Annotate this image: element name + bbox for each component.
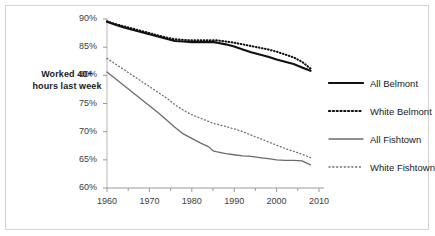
legend-item-3[interactable]: White Fishtown	[328, 160, 435, 174]
x-tick-label: 1990	[216, 196, 252, 206]
x-tick-label: 1960	[89, 196, 125, 206]
legend-swatch-icon	[328, 105, 364, 117]
y-tick-label: 75%	[67, 98, 97, 108]
x-tick-label: 2010	[301, 196, 337, 206]
legend-label: White Belmont	[370, 106, 432, 117]
y-tick-label: 70%	[67, 126, 97, 136]
legend-item-1[interactable]: White Belmont	[328, 104, 432, 118]
x-tick-label: 1980	[174, 196, 210, 206]
y-tick-label: 65%	[67, 154, 97, 164]
y-tick-label: 80%	[67, 69, 97, 79]
legend-item-0[interactable]: All Belmont	[328, 76, 418, 90]
legend-swatch-icon	[328, 133, 364, 145]
x-tick-label: 1970	[131, 196, 167, 206]
legend-swatch-icon	[328, 161, 364, 173]
y-tick-label: 60%	[67, 182, 97, 192]
x-tick-label: 2000	[259, 196, 295, 206]
legend-item-2[interactable]: All Fishtown	[328, 132, 421, 146]
series-line-2	[107, 72, 311, 165]
y-tick-label: 85%	[67, 41, 97, 51]
chart-frame: Worked 40+ hours last week 90%85%80%75%7…	[5, 5, 429, 230]
legend-label: All Fishtown	[370, 134, 421, 145]
legend-swatch-icon	[328, 77, 364, 89]
series-line-3	[107, 58, 311, 157]
y-tick-label: 90%	[67, 13, 97, 23]
legend-label: White Fishtown	[370, 162, 435, 173]
legend-label: All Belmont	[370, 78, 418, 89]
